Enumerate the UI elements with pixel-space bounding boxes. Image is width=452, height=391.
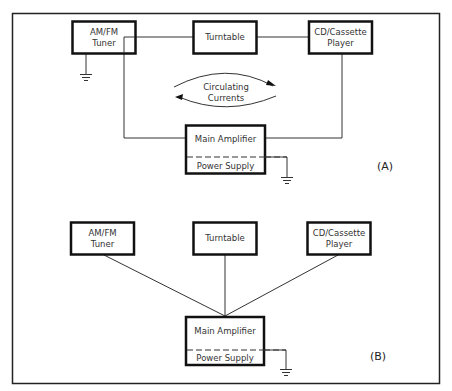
circulating-label-line2: Currents — [208, 93, 245, 103]
turntable-box: Turntable — [194, 22, 257, 54]
main-amplifier-label: Main Amplifier — [194, 326, 256, 336]
ground-icon — [281, 178, 293, 184]
tuner-label-line2: Tuner — [91, 38, 116, 48]
ground-icon — [80, 75, 92, 81]
tuner-label-line1: AM/FM — [90, 27, 118, 37]
tuner-box: AM/FM Tuner — [71, 223, 134, 255]
panel-a-label: (A) — [377, 160, 393, 173]
power-supply-label: Power Supply — [196, 353, 253, 363]
cd-label-line1: CD/Cassette — [313, 228, 365, 238]
ground-icon — [280, 370, 292, 376]
tuner-label-line2: Tuner — [90, 239, 115, 249]
circulating-label-line1: Circulating — [203, 82, 249, 92]
main-amplifier-box: Main Amplifier Power Supply — [186, 126, 265, 174]
circulating-currents-annotation: Circulating Currents — [174, 73, 276, 107]
panel-a: AM/FM Tuner Turntable CD/Cassette Player… — [73, 22, 394, 184]
power-supply-label: Power Supply — [197, 161, 254, 171]
main-amplifier-box: Main Amplifier Power Supply — [186, 317, 264, 365]
panel-b-label: (B) — [370, 350, 386, 363]
arrow-left-icon — [175, 94, 183, 100]
turntable-label: Turntable — [204, 32, 245, 42]
cd-label-line2: Player — [326, 239, 353, 249]
arrow-right-icon — [266, 80, 276, 86]
turntable-box: Turntable — [194, 223, 257, 255]
diagram-canvas: AM/FM Tuner Turntable CD/Cassette Player… — [0, 0, 452, 391]
panel-b: AM/FM Tuner Turntable CD/Cassette Player… — [71, 223, 386, 376]
cd-player-box: CD/Cassette Player — [309, 22, 372, 54]
tuner-label-line1: AM/FM — [88, 228, 116, 238]
cd-player-box: CD/Cassette Player — [308, 223, 371, 255]
cd-label-line1: CD/Cassette — [314, 27, 366, 37]
cd-label-line2: Player — [327, 38, 354, 48]
main-amplifier-label: Main Amplifier — [195, 134, 257, 144]
turntable-label: Turntable — [204, 233, 245, 243]
